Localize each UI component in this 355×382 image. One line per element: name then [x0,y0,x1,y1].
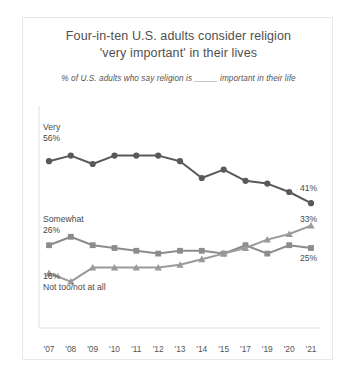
x-axis-tick-labels: '07'08'09'10'11'12'13'14'15'17'19'20'21 [23,344,334,364]
series-label-nottoo-value: 16% [43,271,60,281]
x-tick-label: '12 [147,344,169,354]
x-tick-label: '15 [213,344,235,354]
series-label-somewhat-name: Somewhat [43,214,84,224]
data-point [112,245,118,251]
data-point [221,167,227,173]
data-point [90,161,96,167]
data-point [242,178,248,184]
series-label-very: Very 56% [43,122,60,143]
data-point [264,251,270,257]
series-label-nottoo-name: Not too/not at all [43,282,106,292]
data-point [199,248,205,254]
data-point [308,245,314,251]
data-point [308,200,314,206]
endpoint-label-somewhat: 25% [300,253,317,263]
x-tick-label: '13 [169,344,191,354]
data-point [133,248,139,254]
data-point [286,242,292,248]
chart-plot-area [23,18,334,361]
series-label-very-value: 56% [43,133,60,143]
data-point [264,181,270,187]
data-point [199,175,205,181]
x-tick-label: '17 [235,344,257,354]
endpoint-label-very: 41% [300,183,317,193]
data-point [133,153,139,159]
data-point [155,251,161,257]
x-tick-label: '07 [38,344,60,354]
data-point [46,242,52,248]
x-tick-label: '10 [104,344,126,354]
data-point [68,153,74,159]
x-tick-label: '14 [191,344,213,354]
x-tick-label: '20 [278,344,300,354]
series-label-somewhat-value: 26% [43,225,60,235]
series-layer [45,153,314,285]
data-point [46,158,52,164]
endpoint-label-nottoo: 33% [300,214,317,224]
x-tick-label: '21 [300,344,322,354]
data-point [286,189,292,195]
series-label-nottoo: 16% Not too/not at all [43,271,106,292]
series-label-very-name: Very [43,122,60,132]
data-point [111,153,117,159]
chart-figure: Four-in-ten U.S. adults consider religio… [22,17,333,360]
series-label-somewhat: Somewhat 26% [43,214,84,235]
data-point [177,158,183,164]
x-tick-label: '11 [125,344,147,354]
data-point [177,248,183,254]
x-tick-label: '08 [60,344,82,354]
data-point [155,153,161,159]
x-tick-label: '19 [256,344,278,354]
x-tick-label: '09 [82,344,104,354]
data-point [90,242,96,248]
